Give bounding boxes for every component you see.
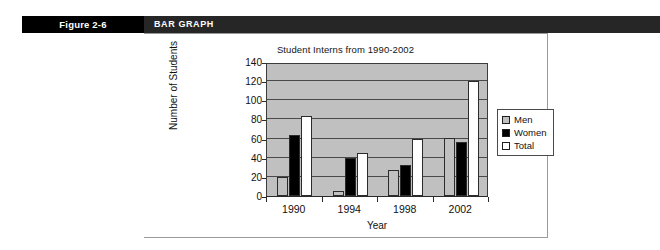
x-axis-tick-mark [488, 197, 489, 202]
y-axis-tick-label: 60 [222, 135, 262, 145]
gridline [267, 80, 487, 81]
figure-number-label: Figure 2-6 [59, 20, 106, 30]
figure-number-cell: Figure 2-6 [22, 16, 144, 33]
legend-item-total[interactable]: Total [502, 139, 547, 152]
legend-swatch-men-icon [502, 116, 510, 124]
legend-label: Women [514, 128, 547, 138]
x-axis-tick-mark [266, 197, 267, 202]
legend-swatch-women-icon [502, 129, 510, 137]
y-axis-tick-label: 140 [222, 58, 262, 68]
x-axis-label: Year [266, 220, 488, 231]
legend-swatch-total-icon [502, 142, 510, 150]
bar-total-1994 [357, 153, 368, 196]
y-axis-tick-label: 120 [222, 77, 262, 87]
x-axis-tick-mark [322, 197, 323, 202]
chart-container: Student Interns from 1990-2002 Number of… [144, 33, 548, 238]
bar-women-1998 [400, 165, 411, 196]
x-axis-tick-label: 2002 [430, 204, 490, 215]
bar-total-1990 [301, 116, 312, 196]
bar-women-1994 [345, 158, 356, 196]
legend-item-women[interactable]: Women [502, 126, 547, 139]
y-axis-tick-label: 80 [222, 115, 262, 125]
chart-title: Student Interns from 1990-2002 [144, 44, 547, 55]
x-axis-tick-mark [377, 197, 378, 202]
figure-header-band: Figure 2-6 BAR GRAPH [22, 16, 660, 33]
x-axis-tick-label: 1998 [375, 204, 435, 215]
bar-women-2002 [456, 142, 467, 196]
bar-women-1990 [289, 135, 300, 196]
y-axis-ticks: 020406080100120140 [218, 63, 262, 197]
y-axis-tick-label: 20 [222, 173, 262, 183]
bar-men-1998 [388, 170, 399, 196]
x-axis-tick-label: 1990 [264, 204, 324, 215]
x-axis-tick-mark [433, 197, 434, 202]
legend-label: Men [514, 115, 532, 125]
plot-area [266, 63, 488, 197]
gridline [267, 99, 487, 100]
bar-total-2002 [468, 81, 479, 196]
legend-label: Total [514, 141, 534, 151]
x-axis-tick-label: 1994 [319, 204, 379, 215]
bar-men-1990 [277, 177, 288, 196]
legend-item-men[interactable]: Men [502, 113, 547, 126]
bar-men-2002 [444, 138, 455, 196]
y-axis-tick-label: 0 [222, 192, 262, 202]
bar-total-1998 [412, 139, 423, 196]
y-axis-label: Number of Students [168, 11, 179, 161]
figure-title-cell: BAR GRAPH [144, 16, 660, 33]
y-axis-tick-label: 40 [222, 154, 262, 164]
gridline [267, 118, 487, 119]
y-axis-tick-label: 100 [222, 96, 262, 106]
figure-title-label: BAR GRAPH [154, 20, 214, 29]
chart-legend: MenWomenTotal [497, 109, 554, 156]
